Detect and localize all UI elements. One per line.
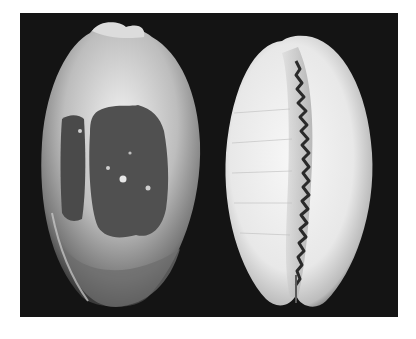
shell-photo xyxy=(20,13,398,317)
photo-panel: cowrie shell, dorsal side with dark cent… xyxy=(20,13,398,317)
shell-ventral xyxy=(225,36,372,307)
shell-dorsal xyxy=(41,22,200,307)
